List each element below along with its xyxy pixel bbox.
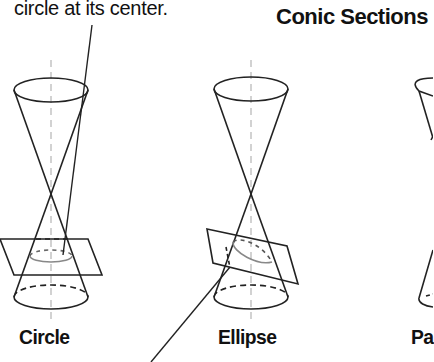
parabola-bottom-rim-back	[426, 294, 433, 296]
circle-pointer-line	[63, 25, 92, 255]
circle-lower-right-side	[51, 194, 88, 297]
parabola-side-tick	[431, 136, 433, 140]
label-ellipse: Ellipse	[218, 325, 276, 349]
parabola-figure	[415, 78, 433, 307]
ellipse-hidden-edge	[226, 247, 230, 268]
parabola-bottom-rim-front	[419, 298, 433, 307]
parabola-upper-left-side	[419, 91, 433, 138]
label-circle: Circle	[19, 325, 69, 349]
circle-figure	[0, 25, 102, 322]
label-parabola: Pa	[411, 325, 434, 349]
ellipse-upper-left-side	[214, 89, 251, 194]
diagram-title: Conic Sections	[276, 4, 428, 30]
ellipse-section-front	[233, 242, 272, 263]
ellipse-lower-left-side	[214, 194, 251, 297]
ellipse-cutting-plane	[207, 229, 298, 284]
circle-lower-left-side	[14, 194, 51, 297]
annotation-text: circle at its center.	[14, 0, 168, 20]
ellipse-figure	[151, 60, 298, 362]
circle-upper-left-side	[14, 90, 51, 194]
ellipse-upper-right-side	[251, 89, 288, 194]
parabola-upper-rim	[415, 78, 433, 96]
parabola-lower-left-side	[419, 250, 433, 298]
